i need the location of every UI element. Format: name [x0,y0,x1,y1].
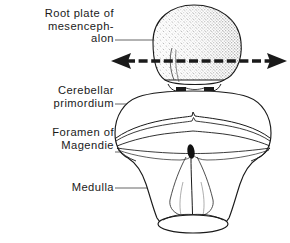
expansion-arrow-head-right [267,53,287,69]
anatomical-figure: Root plate of mesenceph- alon Cerebellar… [0,0,290,243]
label-medulla: Medulla [2,181,114,194]
label-root-plate-of-mesencephalon: Root plate of mesenceph- alon [2,7,114,45]
sphere-ventral-skirt [165,80,224,85]
label-cerebellar-primordium: Cerebellar primordium [2,84,114,109]
expansion-arrow-head-left [111,53,131,69]
junction-notch-right [204,87,214,91]
junction-notch-left [176,87,186,91]
mesencephalon-roof-plate [140,0,260,95]
label-foramen-of-magendie: Foramen of Magendie [2,126,114,151]
isthmus-junction [168,84,221,91]
